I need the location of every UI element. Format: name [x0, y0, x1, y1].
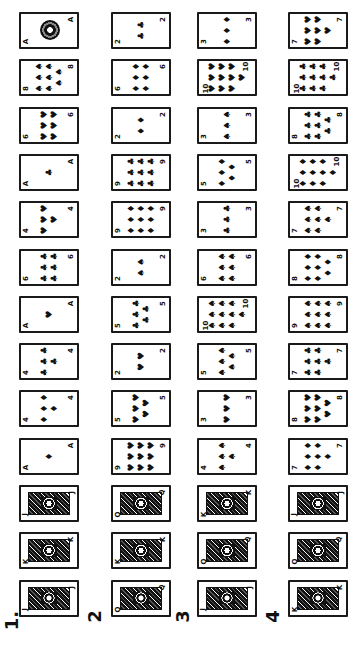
suit-pips: ♦♦♦♦♦♦♦♦♦: [129, 201, 152, 239]
card-index-bottom: 9: [115, 465, 122, 470]
suit-icon: ♠: [43, 83, 53, 94]
card-index-top: 10: [244, 298, 251, 308]
playing-card: JJ: [19, 485, 79, 522]
card-index-top: 2: [160, 254, 167, 259]
suit-icon: ♥: [48, 120, 58, 131]
playing-card: AA: [19, 12, 79, 49]
suit-icon: ♥: [140, 398, 150, 409]
suit-icon: ♥: [312, 25, 322, 36]
suit-pips: ♠♠♠♠♠♠♠♠♠♠: [215, 295, 238, 333]
card-index-top: 3: [246, 206, 253, 211]
card-index-top: 7: [337, 348, 344, 353]
suit-icon: ♠: [226, 262, 236, 273]
card-index-top: 6: [68, 112, 75, 117]
suit-icon: ♦: [302, 251, 312, 262]
suit-icon: ♦: [216, 167, 226, 178]
suit-icon: ♣: [307, 83, 317, 94]
playing-card: 22♦♦: [111, 107, 171, 144]
suit-icon: ♠: [322, 298, 332, 309]
suit-icon: ♥: [226, 83, 236, 94]
playing-card: 1010♥♥♥♥♥♥♥♥♥♥: [197, 59, 257, 96]
suit-icon: ♣: [327, 72, 337, 83]
suit-icon: ♥: [38, 225, 48, 236]
suit-icon: ♦: [130, 61, 140, 72]
suit-pips: ♦♦♦♦♦: [215, 153, 238, 191]
suit-icon: ♠: [216, 367, 226, 378]
suit-icon: ♥: [322, 409, 332, 420]
card-index-bottom: 7: [292, 370, 299, 375]
suit-icon: ♣: [130, 309, 140, 320]
playing-card: 22♠♠: [111, 249, 171, 286]
card-index-top: A: [68, 301, 75, 306]
card-index-bottom: 7: [292, 465, 299, 470]
suit-icon: ♥: [135, 451, 145, 462]
suit-icon: ♠: [302, 225, 312, 236]
suit-icon: ♠: [216, 273, 226, 284]
playing-card: 88♦♦♦♦♦♦♦♦: [288, 249, 348, 286]
suit-icon: ♥: [226, 61, 236, 72]
card-index-bottom: A: [23, 323, 30, 328]
suit-pips: ♥♥: [129, 343, 152, 381]
suit-icon: ♣: [317, 61, 327, 72]
suit-icon: ♣: [125, 178, 135, 189]
playing-card: 99♦♦♦♦♦♦♦♦♦: [111, 201, 171, 238]
suit-icon: ♣: [312, 131, 322, 142]
suit-pips: ♥♥♥♥♥♥♥♥♥: [129, 437, 152, 475]
card-index-top: 10: [244, 62, 251, 72]
playing-card: 55♣♣♣♣♣: [111, 296, 171, 333]
playing-card: 1010♦♦♦♦♦♦♦♦♦♦: [288, 154, 348, 191]
suit-icon: ♥: [38, 214, 48, 225]
card-index-top: 9: [160, 206, 167, 211]
suit-icon: ♠: [216, 345, 226, 356]
suit-icon: ♥: [312, 403, 322, 414]
suit-icon: ♥: [135, 440, 145, 451]
card-index-bottom: 4: [23, 228, 30, 233]
suit-icon: ♣: [221, 203, 231, 214]
suit-icon: ♣: [145, 156, 155, 167]
suit-icon: ♣: [145, 178, 155, 189]
suit-icon: ♥: [302, 25, 312, 36]
suit-icon: ♣: [297, 72, 307, 83]
card-index-bottom: 7: [292, 39, 299, 44]
playing-card: 66♦♦♦♦♦♦: [111, 59, 171, 96]
card-index-top: 9: [337, 301, 344, 306]
suit-pips: ♥♥♥♥♥♥♥♥♥♥: [215, 59, 238, 97]
card-row-1: AA88♠♠♠♠♠♠♠♠66♥♥♥♥♥♥AA♣44♥♥♥♥66♣♣♣♣♣♣AA♥…: [19, 0, 83, 647]
suit-icon: ♦: [135, 125, 145, 136]
playing-card: 77♥♥♥♥♥♥♥: [288, 12, 348, 49]
suit-icon: ♣: [312, 356, 322, 367]
suit-icon: ♠: [312, 225, 322, 236]
card-index-top: J: [338, 491, 345, 494]
court-card-art: [297, 492, 339, 515]
card-index-bottom: 5: [201, 181, 208, 186]
card-index-top: 2: [160, 112, 167, 117]
card-index-top: 8: [68, 64, 75, 69]
card-index-bottom: 8: [292, 276, 299, 281]
card-index-bottom: 4: [23, 417, 30, 422]
suit-pips: ♠♠♠♠♠♠♠♠: [37, 59, 60, 97]
suit-icon: ♣: [317, 72, 327, 83]
suit-icon: ♣: [302, 109, 312, 120]
suit-icon: ♦: [140, 61, 150, 72]
card-index-top: 3: [246, 112, 253, 117]
suit-icon: ♠: [221, 109, 231, 120]
suit-icon: ♦: [135, 203, 145, 214]
suit-icon: ♣: [43, 167, 53, 178]
suit-pips: ♥♥♥♥♥: [129, 390, 152, 428]
suit-icon: ♥: [221, 392, 231, 403]
suit-icon: ♣: [48, 251, 58, 262]
suit-icon: ♠: [226, 309, 236, 320]
suit-pips: ♣♣: [129, 12, 152, 50]
suit-icon: ♦: [322, 451, 332, 462]
suit-icon: ♦: [307, 156, 317, 167]
ornate-ace-icon: [40, 20, 60, 40]
row-number-label: 2: [84, 610, 105, 623]
court-card-art: [28, 492, 70, 515]
card-index-bottom: 5: [115, 417, 122, 422]
suit-icon: ♠: [216, 262, 226, 273]
playing-card: JJ: [19, 580, 79, 617]
playing-card: 55♦♦♦♦♦: [197, 154, 257, 191]
suit-icon: ♣: [140, 303, 150, 314]
suit-icon: ♦: [216, 178, 226, 189]
suit-icon: ♦: [140, 72, 150, 83]
